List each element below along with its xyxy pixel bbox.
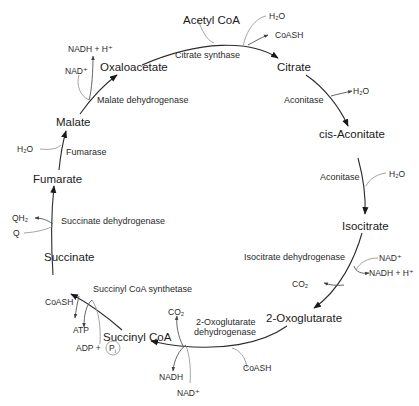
metabolite-malate: Malate — [56, 116, 91, 128]
side-ogdh-nadh-out — [173, 345, 186, 371]
enzyme-succinyl-coa-synthetase: Succinyl CoA synthetase — [93, 284, 192, 294]
cofactor-cs-coash: CoASH — [275, 30, 303, 40]
enzyme-2-oxoglutarate-dehydrogenase-line1: 2-Oxoglutarate — [196, 317, 256, 327]
arrow-aconitase-2 — [358, 158, 365, 214]
cofactor-ogdh-nad: NAD⁺ — [177, 388, 200, 398]
side-mdh-nad-in — [78, 75, 89, 100]
cofactor-sdh-q: Q — [13, 228, 20, 238]
metabolite-isocitrate: Isocitrate — [342, 220, 389, 232]
cofactor-mdh-nadh: NADH + H⁺ — [68, 44, 113, 54]
arrow-isocitrate-dh — [314, 233, 362, 308]
enzyme-aconitase-1: Aconitase — [284, 95, 324, 105]
cofactor-idh-nad: NAD⁺ — [379, 253, 402, 263]
side-idh-nadh-out — [354, 266, 369, 273]
metabolite-citrate: Citrate — [277, 61, 311, 73]
cofactor-ogdh-co2: CO₂ — [168, 307, 184, 317]
side-idh-co2-out — [324, 283, 344, 285]
cofactor-cs-h2o: H₂O — [269, 11, 285, 21]
side-ogdh-nad-in — [186, 346, 190, 383]
side-ogdh-co2-out — [177, 316, 183, 346]
metabolite-cis-aconitate: cis-Aconitate — [319, 128, 385, 140]
metabolite-oxaloacetate: Oxaloacetate — [100, 61, 168, 73]
cofactor-scs-atp: ATP — [73, 325, 89, 335]
enzyme-isocitrate-dehydrogenase: Isocitrate dehydrogenase — [244, 252, 345, 262]
citric-acid-cycle-diagram: Acetyl CoA Citrate cis-Aconitate Isocitr… — [0, 0, 419, 406]
cofactor-scs-coash: CoASH — [45, 297, 73, 307]
enzyme-citrate-synthase: Citrate synthase — [175, 50, 240, 60]
cofactor-aconitase2-h2o: H₂O — [389, 169, 405, 179]
side-acon2-h2o-in — [366, 173, 386, 186]
metabolite-2-oxoglutarate: 2-Oxoglutarate — [266, 312, 342, 324]
side-acon1-h2o-out — [331, 91, 352, 96]
side-fum-h2o-in — [40, 145, 61, 149]
cofactor-ogdh-nadh: NADH — [159, 372, 183, 382]
cofactor-aconitase1-h2o: H₂O — [353, 86, 369, 96]
metabolite-acetyl-coa: Acetyl CoA — [183, 14, 240, 26]
cofactor-ogdh-coash: CoASH — [243, 363, 271, 373]
enzyme-aconitase-2: Aconitase — [320, 172, 360, 182]
metabolite-fumarate: Fumarate — [33, 173, 82, 185]
side-sdh-qh2-out — [35, 218, 53, 224]
side-mdh-nadh-out — [89, 56, 93, 100]
side-cs-coash-out — [248, 35, 268, 45]
enzyme-fumarase: Fumarase — [66, 147, 107, 157]
cofactor-idh-nadh: NADH + H⁺ — [369, 268, 414, 278]
cofactor-mdh-nad: NAD⁺ — [65, 66, 88, 76]
side-scs-coash-out — [75, 296, 79, 318]
arrow-fumarase — [59, 131, 66, 170]
cofactor-scs-pi: Pi — [109, 343, 116, 354]
enzyme-malate-dehydrogenase: Malate dehydrogenase — [97, 95, 189, 105]
cofactor-scs-adp: ADP + — [76, 343, 101, 353]
enzyme-2-oxoglutarate-dehydrogenase-line2: dehydrogenase — [194, 327, 256, 337]
metabolite-succinate: Succinate — [44, 251, 95, 263]
side-scs-adp-in — [92, 300, 100, 344]
cofactor-sdh-qh2: QH₂ — [12, 213, 28, 223]
enzyme-succinate-dehydrogenase: Succinate dehydrogenase — [61, 216, 165, 226]
side-cs-h2o-in — [243, 16, 266, 47]
side-sdh-q-in — [24, 226, 53, 233]
cofactor-idh-co2: CO₂ — [292, 279, 308, 289]
cofactor-fumarase-h2o: H₂O — [17, 144, 33, 154]
